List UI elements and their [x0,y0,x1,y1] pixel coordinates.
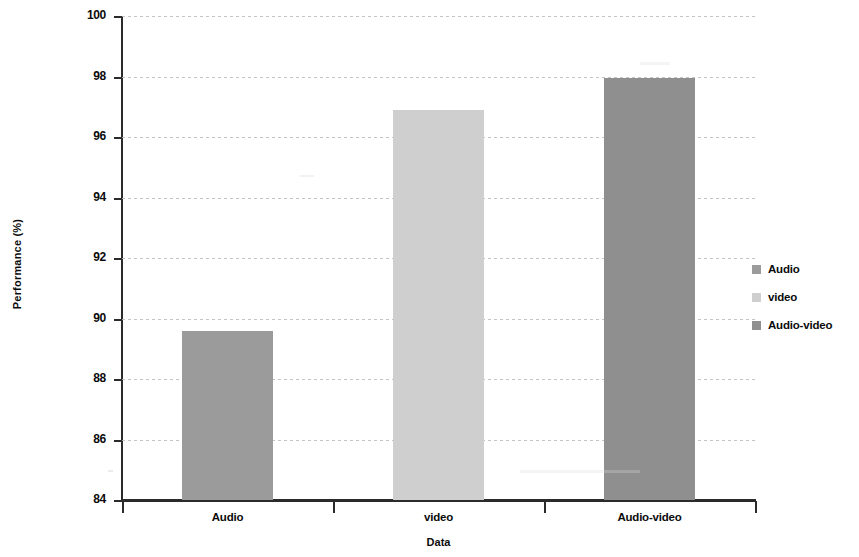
gridline-84 [122,500,755,502]
plot-area [122,16,755,500]
y-tick-label: 98 [24,69,106,83]
legend-item-audio-video[interactable]: Audio-video [752,311,859,339]
y-tick-mark-84 [114,500,122,502]
legend-label: Audio-video [768,319,832,331]
legend-item-audio[interactable]: Audio [752,255,859,283]
y-tick-mark-94 [114,198,122,200]
y-tick-mark-92 [114,258,122,260]
scan-artifact [108,470,113,472]
legend-label: Audio [768,263,800,275]
y-tick-mark-86 [114,440,122,442]
x-tick-label-video: video [333,511,544,523]
y-tick-mark-90 [114,319,122,321]
legend-swatch-icon [752,293,761,302]
y-tick-mark-100 [114,16,122,18]
y-tick-label: 84 [24,492,106,506]
bar-chart: Performance (%) Data 8486889092949698100… [0,0,859,557]
y-tick-mark-88 [114,379,122,381]
y-axis-title: Performance (%) [11,184,23,344]
legend-item-video[interactable]: video [752,283,859,311]
gridline-100 [122,16,755,17]
y-tick-label: 88 [24,371,106,385]
scan-artifact [640,62,670,65]
legend-swatch-icon [752,321,761,330]
legend: AudiovideoAudio-video [752,255,859,339]
scan-artifact [300,175,314,177]
legend-swatch-icon [752,265,761,274]
y-tick-label: 90 [24,311,106,325]
y-tick-mark-96 [114,137,122,139]
y-tick-label: 100 [24,8,106,22]
bar-audio-video [604,78,695,500]
x-tick-label-audio-video: Audio-video [544,511,755,523]
bar-audio [182,331,273,500]
y-tick-mark-98 [114,77,122,79]
y-tick-label: 92 [24,250,106,264]
bar-video [393,110,484,500]
x-tick-label-audio: Audio [122,511,333,523]
y-tick-label: 86 [24,432,106,446]
legend-label: video [768,291,797,303]
y-tick-label: 96 [24,129,106,143]
x-axis-title: Data [122,536,755,548]
scan-artifact [520,470,640,473]
x-tick-mark-3 [755,501,757,513]
y-tick-label: 94 [24,190,106,204]
